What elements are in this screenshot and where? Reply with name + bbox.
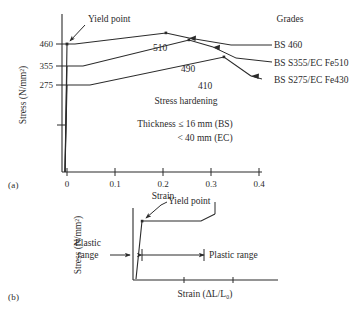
chart-a-legend-title: Grades [277,14,304,24]
stress-strain-figure: 460 355 275 0 0.1 0.2 0.3 0.4 Strain Str… [0,0,356,322]
chart-a-yield-point-label: Yield point [88,14,131,24]
chart-a-xtick-0.4: 0.4 [253,179,265,189]
chart-b-yield-point-label: Yield point [168,196,211,206]
chart-a-stress-hardening-label: Stress hardening [154,96,217,106]
chart-b-x-axis-label: Strain (ΔL/L₀) [177,289,232,300]
chart-a-xtick-0.3: 0.3 [205,179,217,189]
chart-a-xtick-0.1: 0.1 [109,179,120,189]
chart-a-thickness-note-line2: < 40 mm (EC) [177,133,232,144]
chart-a-thickness-note-line1: Thickness ≤ 16 mm (BS) [137,119,232,130]
chart-b-plastic-range-label: Plastic range [209,250,258,260]
panel-b-label: (b) [8,292,19,302]
chart-a-legend-item-bs460: BS 460 [274,40,302,50]
chart-b-y-axis-label: Stress (N/mm²) [73,216,84,275]
chart-a-value-510: 510 [153,43,168,53]
chart-a-yield-point-marker [66,43,69,46]
chart-a-ytick-460: 460 [40,39,54,49]
chart-a-ytick-275: 275 [40,80,54,90]
figure-background [0,0,356,322]
panel-a-label: (a) [8,180,19,190]
chart-a-value-490: 490 [181,64,196,74]
chart-a-value-410: 410 [198,81,213,91]
chart-a-y-axis-label: Stress (N/mm²) [18,66,29,125]
chart-a-legend-item-s355: BS S355/EC Fe510 [274,58,349,68]
chart-b-yield-point-marker [141,220,144,223]
chart-a-xtick-0: 0 [65,179,70,189]
chart-a-ytick-355: 355 [40,61,54,71]
figure-container: 460 355 275 0 0.1 0.2 0.3 0.4 Strain Str… [0,0,356,322]
chart-a-xtick-0.2: 0.2 [157,179,168,189]
chart-a-legend-item-s275: BS S275/EC Fe430 [274,75,349,85]
